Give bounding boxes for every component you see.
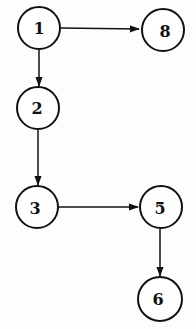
node-6: 6 xyxy=(138,277,182,321)
node-2: 2 xyxy=(17,87,59,129)
node-5: 5 xyxy=(140,186,182,228)
edge-1-to-8 xyxy=(61,28,139,29)
node-6-label: 6 xyxy=(152,290,163,309)
node-5-label: 5 xyxy=(154,199,165,218)
node-2-label: 2 xyxy=(31,99,42,118)
node-8-label: 8 xyxy=(159,22,170,41)
node-1-label: 1 xyxy=(33,19,44,38)
graph-svg: 1 8 2 3 5 6 xyxy=(0,0,196,329)
node-3: 3 xyxy=(16,186,58,228)
node-8: 8 xyxy=(142,9,184,51)
graph-diagram: 1 8 2 3 5 6 xyxy=(0,0,196,329)
node-3-label: 3 xyxy=(29,199,40,218)
node-1: 1 xyxy=(18,7,60,49)
